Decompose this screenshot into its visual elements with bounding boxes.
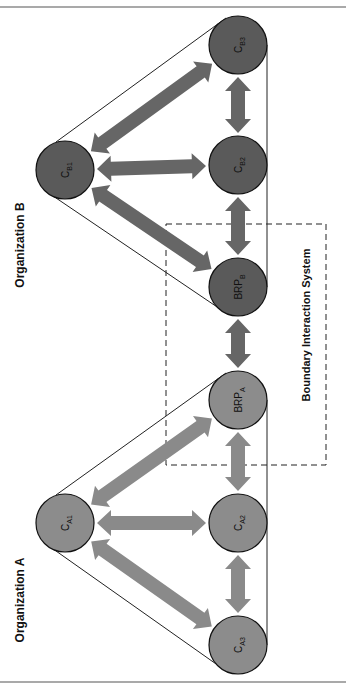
node-ca2: CA2	[209, 494, 267, 552]
double-arrow-cb1-brpb	[92, 185, 212, 272]
node-brpa: BRPA	[209, 371, 267, 429]
double-arrow-ca1-brpa	[91, 416, 212, 507]
org-b-label: Organization B	[13, 202, 27, 288]
node-circle	[36, 494, 94, 552]
node-ca1: CA1	[36, 494, 94, 552]
double-arrow-cb3-cb2	[225, 77, 251, 133]
node-cb2: CB2	[209, 136, 267, 194]
org-a-label: Organization A	[13, 557, 27, 642]
node-circle	[209, 16, 267, 74]
node-circle	[209, 136, 267, 194]
double-arrow-ca1-ca3	[91, 539, 212, 629]
double-arrow-cb1-cb2	[97, 153, 206, 181]
double-arrow-brpb-brpa	[225, 319, 251, 368]
node-cb1: CB1	[36, 141, 94, 199]
double-arrow-brpa-ca2	[225, 432, 251, 491]
double-arrow-ca2-ca3	[225, 555, 251, 613]
node-circle	[36, 141, 94, 199]
double-arrow-cb1-cb3	[91, 61, 212, 153]
node-cb3: CB3	[209, 16, 267, 74]
node-ca3: CA3	[209, 616, 267, 674]
node-circle	[209, 616, 267, 674]
node-brpb: BRPB	[209, 258, 267, 316]
org-interaction-diagram: CB3CB2BRPBCB1BRPACA2CA3CA1 Organization …	[0, 0, 346, 686]
boundary-label: Boundary Interaction System	[300, 248, 312, 401]
double-arrow-cb2-brpb	[225, 197, 251, 255]
double-arrow-ca1-ca2	[97, 510, 206, 536]
node-circle	[209, 494, 267, 552]
